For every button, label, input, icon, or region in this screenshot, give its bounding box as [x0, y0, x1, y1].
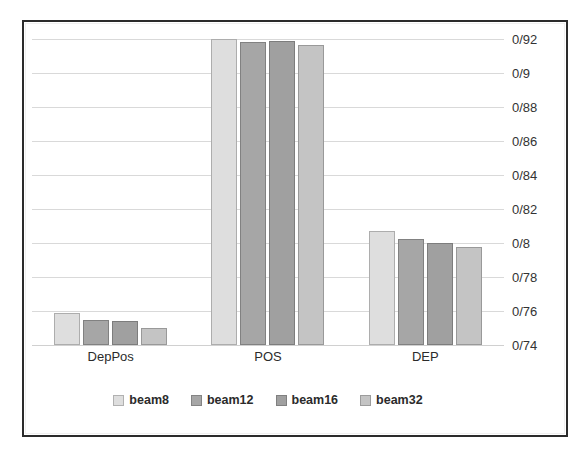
legend-label: beam8 [129, 393, 169, 407]
bar-beam12-pos[interactable] [240, 42, 266, 345]
y-axis-tick-label: 0/88 [512, 100, 572, 115]
bar-group-bars [189, 39, 346, 345]
legend-label: beam16 [292, 393, 339, 407]
y-axis-tick-label: 0/78 [512, 270, 572, 285]
legend-item-beam32[interactable]: beam32 [360, 393, 423, 407]
bar-group-deppos [32, 39, 189, 345]
y-axis-tick-label: 0/86 [512, 134, 572, 149]
y-axis-tick-label: 0/76 [512, 304, 572, 319]
bar-group-bars [347, 39, 504, 345]
legend-swatch-icon [113, 395, 124, 406]
bar-beam32-pos[interactable] [298, 45, 324, 345]
x-axis-category-labels: DepPosPOSDEP [32, 349, 504, 371]
bar-beam8-pos[interactable] [211, 39, 237, 345]
chart-legend: beam8beam12beam16beam32 [32, 390, 504, 410]
y-axis-tick-label: 0/8 [512, 236, 572, 251]
bar-beam12-deppos[interactable] [83, 320, 109, 346]
legend-item-beam16[interactable]: beam16 [276, 393, 339, 407]
y-axis-tick-label: 0/74 [512, 338, 572, 353]
y-axis-tick-labels: 0/920/90/880/860/840/820/80/780/760/74 [512, 39, 580, 345]
x-axis-label-dep: DEP [347, 349, 504, 371]
legend-swatch-icon [276, 395, 287, 406]
bar-beam16-deppos[interactable] [112, 321, 138, 345]
bar-group-bars [32, 39, 189, 345]
y-axis-tick-label: 0/9 [512, 66, 572, 81]
bar-beam8-dep[interactable] [369, 231, 395, 345]
bar-beam32-deppos[interactable] [141, 328, 167, 345]
bar-group-pos [189, 39, 346, 345]
bar-beam16-pos[interactable] [269, 41, 295, 345]
legend-swatch-icon [360, 395, 371, 406]
legend-label: beam12 [207, 393, 254, 407]
bar-beam12-dep[interactable] [398, 239, 424, 345]
bar-beam32-dep[interactable] [456, 247, 482, 345]
gridline [32, 345, 504, 346]
bar-group-dep [347, 39, 504, 345]
x-axis-label-pos: POS [189, 349, 346, 371]
y-axis-tick-label: 0/84 [512, 168, 572, 183]
chart-frame: 0/920/90/880/860/840/820/80/780/760/74 D… [22, 20, 568, 437]
y-axis-tick-label: 0/82 [512, 202, 572, 217]
legend-swatch-icon [191, 395, 202, 406]
legend-label: beam32 [376, 393, 423, 407]
x-axis-label-deppos: DepPos [32, 349, 189, 371]
legend-item-beam8[interactable]: beam8 [113, 393, 169, 407]
bar-beam16-dep[interactable] [427, 243, 453, 345]
chart-title-sliver [0, 0, 585, 14]
bar-groups [32, 39, 504, 345]
y-axis-tick-label: 0/92 [512, 32, 572, 47]
legend-item-beam12[interactable]: beam12 [191, 393, 254, 407]
bar-beam8-deppos[interactable] [54, 313, 80, 345]
